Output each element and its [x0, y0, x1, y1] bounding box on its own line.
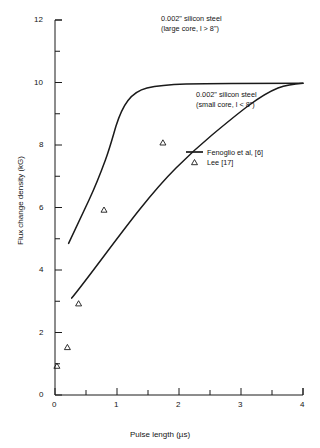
x-axis-title: Pulse length (µs) — [100, 430, 220, 439]
chart-figure: 12 10 8 6 4 2 0 0 1 2 3 4 Flux change de… — [0, 0, 320, 448]
data-point-marker — [160, 140, 166, 145]
y-axis-title: Flux change density (kG) — [16, 136, 25, 266]
x-axis-major-ticks — [55, 388, 303, 395]
x-tick-label-4: 4 — [300, 400, 304, 409]
data-point-marker — [76, 301, 82, 306]
chart-plot-area — [0, 0, 320, 448]
large-core-annotation-line-1: 0.002" silicon steel — [161, 14, 222, 24]
y-tick-label-2: 2 — [39, 328, 43, 337]
data-point-marker — [64, 344, 70, 349]
x-tick-label-1: 1 — [114, 400, 118, 409]
y-tick-label-12: 12 — [34, 15, 43, 24]
x-tick-label-0: 0 — [52, 400, 56, 409]
y-tick-label-10: 10 — [34, 78, 43, 87]
data-point-marker — [101, 207, 107, 212]
series-markers-lee — [54, 140, 166, 368]
y-tick-label-8: 8 — [39, 140, 43, 149]
series-line-large-core — [69, 83, 303, 243]
large-core-annotation-line-2: (large core, l > 8") — [161, 24, 222, 34]
legend-label-fenoglio: Fenoglio et al, [6] — [207, 148, 263, 157]
y-tick-label-4: 4 — [39, 265, 43, 274]
legend-label-lee: Lee [17] — [207, 158, 233, 167]
series-line-small-core — [72, 83, 303, 298]
small-core-annotation-line-2: (small core, l < 8") — [196, 100, 257, 110]
y-tick-label-0: 0 — [39, 390, 43, 399]
y-tick-label-6: 6 — [39, 203, 43, 212]
large-core-annotation: 0.002" silicon steel (large core, l > 8"… — [161, 14, 222, 33]
small-core-annotation-line-1: 0.002" silicon steel — [196, 90, 257, 100]
x-tick-label-2: 2 — [176, 400, 180, 409]
legend-triangle-icon — [192, 160, 198, 165]
legend-markers — [186, 152, 203, 165]
y-axis-major-ticks — [55, 20, 62, 395]
x-tick-label-3: 3 — [238, 400, 242, 409]
small-core-annotation: 0.002" silicon steel (small core, l < 8"… — [196, 90, 257, 109]
